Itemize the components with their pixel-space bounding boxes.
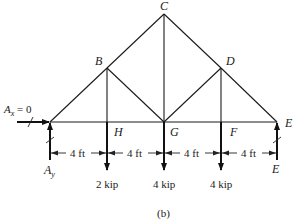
reaction-ay-label: Ay <box>44 164 55 179</box>
dimension-label-ah: 4 ft <box>70 148 85 159</box>
member-ab <box>50 68 107 122</box>
node-label-g: G <box>170 126 179 138</box>
node-label-h: H <box>114 126 123 138</box>
load-label-f: 4 kip <box>210 179 232 190</box>
dimension-label-gf: 4 ft <box>184 148 199 159</box>
ax-symbol: A <box>4 103 11 115</box>
dimension-label-hg: 4 ft <box>127 148 142 159</box>
node-label-e: E <box>285 117 292 129</box>
load-label-g: 4 kip <box>153 179 175 190</box>
reaction-ay-arrow <box>46 123 54 160</box>
dimension-label-fe: 4 ft <box>241 148 256 159</box>
load-label-h: 2 kip <box>96 179 118 190</box>
ax-value: = 0 <box>14 103 31 115</box>
member-cd <box>164 14 221 68</box>
truss-drawing <box>0 0 299 223</box>
figure-caption: (b) <box>157 208 170 219</box>
member-de <box>221 68 277 122</box>
member-bc <box>107 14 164 68</box>
member-dg <box>164 68 221 122</box>
node-label-d: D <box>226 55 235 67</box>
truss-diagram: B C D E H G F Ax = 0 Ay E 4 ft 4 ft 4 ft… <box>0 0 299 223</box>
reaction-ax-arrow <box>17 117 49 127</box>
member-bg <box>107 68 164 122</box>
truss-members <box>50 14 277 122</box>
reaction-ax-label: Ax = 0 <box>4 104 32 118</box>
ay-subscript: y <box>51 170 55 179</box>
reaction-e-arrow <box>273 123 281 160</box>
node-label-f: F <box>230 126 237 138</box>
reaction-e-label: E <box>272 163 279 175</box>
node-label-c: C <box>160 0 168 12</box>
node-label-b: B <box>95 55 102 67</box>
